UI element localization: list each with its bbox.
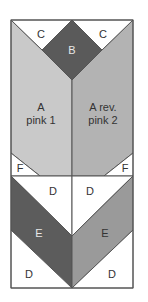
label-d-bottom-left: D bbox=[25, 268, 33, 280]
label-e-left: E bbox=[35, 227, 42, 239]
label-a-right-line1: A rev. bbox=[89, 101, 116, 113]
label-c-left: C bbox=[37, 28, 45, 40]
label-a-right-line2: pink 2 bbox=[88, 114, 117, 126]
label-c-right: C bbox=[99, 28, 107, 40]
quilt-block-diagram: C C B A pink 1 A rev. pink 2 F F D D E E… bbox=[0, 0, 148, 302]
label-a-left-line2: pink 1 bbox=[26, 114, 55, 126]
label-a-left-line1: A bbox=[37, 101, 45, 113]
label-b: B bbox=[68, 44, 75, 56]
label-f-left: F bbox=[17, 162, 24, 174]
label-d-top-right: D bbox=[86, 185, 94, 197]
label-d-bottom-right: D bbox=[108, 268, 116, 280]
label-e-right: E bbox=[101, 227, 108, 239]
label-d-top-left: D bbox=[49, 185, 57, 197]
label-f-right: F bbox=[122, 162, 129, 174]
